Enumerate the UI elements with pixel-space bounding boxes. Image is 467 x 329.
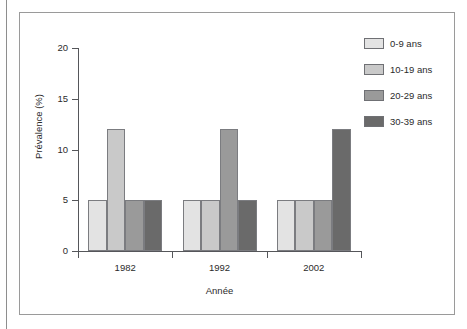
bar-1982-30-39-ans <box>144 200 163 251</box>
legend-label: 0-9 ans <box>390 38 422 49</box>
x-tick-2002 <box>267 251 268 258</box>
legend-swatch-icon <box>364 90 384 101</box>
y-tick-label-20: 20 <box>20 43 68 53</box>
bar-1992-10-19-ans <box>201 200 220 251</box>
y-tick-label-5: 5 <box>20 195 68 205</box>
legend-swatch-icon <box>364 64 384 75</box>
legend-swatch-icon <box>364 116 384 127</box>
bar-1992-0-9-ans <box>183 200 202 251</box>
bar-1992-30-39-ans <box>238 200 257 251</box>
bar-1992-20-29-ans <box>220 129 239 251</box>
bar-2002-10-19-ans <box>295 200 314 251</box>
y-tick-10 <box>72 150 79 151</box>
x-tick-end <box>361 251 362 258</box>
y-tick-5 <box>72 200 79 201</box>
legend-label: 20-29 ans <box>390 90 432 101</box>
x-tick-label-2002: 2002 <box>267 263 361 273</box>
legend-label: 30-39 ans <box>390 116 432 127</box>
bar-2002-20-29-ans <box>314 200 333 251</box>
x-axis-title: Année <box>78 285 361 296</box>
y-tick-label-0: 0 <box>20 246 68 256</box>
bar-1982-10-19-ans <box>107 129 126 251</box>
y-axis-title: Prévalence (%) <box>33 67 44 187</box>
x-tick-1992 <box>172 251 173 258</box>
page-edge-rule <box>6 0 7 329</box>
bar-2002-30-39-ans <box>332 129 351 251</box>
plot-area: 05101520 198219922002 Année Prévalence (… <box>20 13 456 316</box>
y-tick-15 <box>72 99 79 100</box>
legend-swatch-icon <box>364 38 384 49</box>
y-tick-label-15: 15 <box>20 94 68 104</box>
y-tick-20 <box>72 48 79 49</box>
x-tick-label-1992: 1992 <box>172 263 266 273</box>
x-axis-line <box>78 251 361 252</box>
x-tick-1982 <box>78 251 79 258</box>
bar-1982-0-9-ans <box>88 200 107 251</box>
legend-label: 10-19 ans <box>390 64 432 75</box>
bar-2002-0-9-ans <box>277 200 296 251</box>
bar-1982-20-29-ans <box>125 200 144 251</box>
x-tick-label-1982: 1982 <box>78 263 172 273</box>
figure-frame: 05101520 198219922002 Année Prévalence (… <box>19 12 455 315</box>
y-tick-label-10: 10 <box>20 145 68 155</box>
